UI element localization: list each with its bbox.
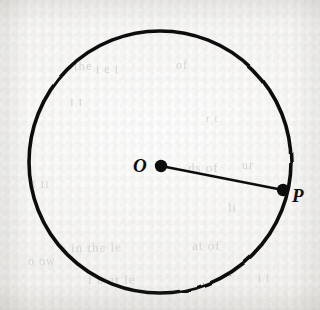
figure-canvas: thei e iofI Ir tds ofurlie in the leat o… — [0, 0, 320, 310]
center-point-label: O — [133, 156, 147, 175]
circumference-point-dot — [277, 184, 289, 196]
circle-diagram-svg — [0, 0, 320, 310]
circumference-point-label: P — [292, 186, 304, 205]
radius-segment-OP — [161, 166, 283, 190]
center-point-dot — [155, 160, 167, 172]
